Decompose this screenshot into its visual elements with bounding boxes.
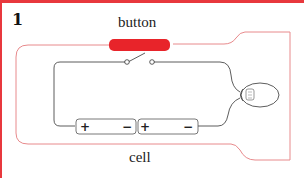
switch-contact-right: [150, 60, 155, 65]
switch-contact-left: [125, 60, 130, 65]
battery-cell-1: + −: [76, 119, 136, 134]
svg-text:−: −: [183, 120, 193, 134]
circuit-diagram: + − + −: [0, 0, 304, 178]
bulb-icon: [241, 83, 279, 107]
svg-text:−: −: [122, 120, 132, 134]
battery-cell-2: + −: [138, 119, 198, 134]
push-button: [109, 39, 170, 51]
svg-text:+: +: [140, 120, 150, 134]
svg-text:+: +: [80, 120, 90, 134]
switch-lever: [128, 53, 145, 62]
wire-bottom-right: [198, 98, 240, 126]
wire-left: [54, 62, 125, 126]
wire-top-right: [154, 62, 240, 92]
